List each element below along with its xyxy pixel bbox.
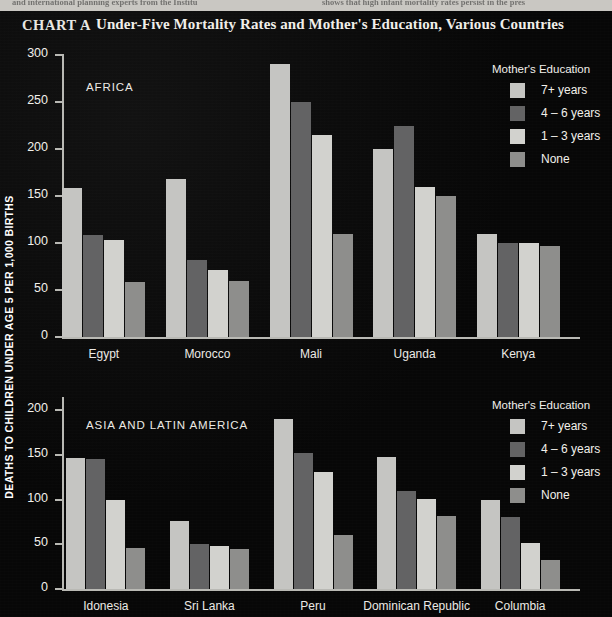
legend-title: Mother's Education: [492, 399, 590, 411]
bar-asia-latin-america-3-1: [397, 491, 416, 589]
legend-item-label: 7+ years: [541, 419, 587, 433]
y-axis-tick: [55, 454, 64, 456]
bar-africa-0-2: [104, 240, 124, 337]
legend-item-label: None: [541, 488, 570, 502]
bar-africa-2-0: [270, 64, 290, 337]
legend-swatch-icon: [510, 465, 525, 480]
y-axis-title: DEATHS TO CHILDREN UNDER AGE 5 PER 1,000…: [3, 157, 15, 537]
y-axis-tick-label: 200: [4, 401, 48, 415]
y-axis-tick: [55, 101, 64, 103]
page-title: Under-Five Mortality Rates and Mother's …: [96, 16, 564, 33]
y-axis-tick-label: 300: [4, 46, 48, 60]
bar-africa-4-2: [519, 243, 539, 337]
bar-asia-latin-america-3-3: [437, 516, 456, 589]
legend-swatch-icon: [510, 419, 525, 434]
x-axis-category-label: Columbia: [450, 599, 590, 613]
bar-africa-1-3: [229, 281, 249, 337]
page-text-fragment-right: shows that high infant mortality rates p…: [322, 0, 525, 7]
bar-asia-latin-america-2-2: [314, 472, 333, 589]
bar-asia-latin-america-4-2: [521, 543, 540, 589]
y-axis-tick: [55, 543, 64, 545]
y-axis-tick-label: 250: [4, 93, 48, 107]
x-axis-line: [62, 589, 580, 591]
page-text-fragment-left: and international planning experts from …: [12, 0, 197, 7]
chart-panel: CHART A Under-Five Mortality Rates and M…: [0, 11, 612, 617]
bar-asia-latin-america-4-0: [481, 500, 500, 589]
legend-swatch-icon: [510, 106, 525, 121]
y-axis-tick-label: 100: [4, 234, 48, 248]
bar-asia-latin-america-1-3: [230, 549, 249, 589]
y-axis-tick: [55, 409, 64, 411]
legend-item-label: 4 – 6 years: [541, 106, 600, 120]
bar-africa-2-3: [333, 234, 353, 337]
bar-africa-1-2: [208, 270, 228, 337]
bar-asia-latin-america-0-3: [126, 548, 145, 589]
bar-africa-3-1: [394, 126, 414, 338]
bar-africa-3-3: [436, 196, 456, 337]
bar-asia-latin-america-1-1: [190, 544, 209, 589]
y-axis-tick: [55, 588, 64, 590]
y-axis-tick-label: 100: [4, 491, 48, 505]
bar-asia-latin-america-2-1: [294, 453, 313, 589]
bar-asia-latin-america-3-2: [417, 499, 436, 589]
page-top-strip: and international planning experts from …: [0, 0, 612, 11]
x-axis-category-label: Kenya: [448, 347, 588, 361]
legend-item-label: 1 – 3 years: [541, 129, 600, 143]
bar-asia-latin-america-0-0: [66, 458, 85, 589]
legend-item-label: 7+ years: [541, 83, 587, 97]
y-axis-tick-label: 50: [4, 281, 48, 295]
y-axis-tick-label: 200: [4, 140, 48, 154]
bar-africa-3-2: [415, 187, 435, 337]
legend-swatch-icon: [510, 152, 525, 167]
x-axis-line: [62, 337, 580, 339]
legend-title: Mother's Education: [492, 63, 590, 75]
chart-number-label: CHART A: [22, 17, 91, 34]
y-axis-tick: [55, 148, 64, 150]
legend-swatch-icon: [510, 442, 525, 457]
y-axis-tick-label: 0: [4, 580, 48, 594]
bar-chart-asia-latin-america: 050100150200ASIA AND LATIN AMERICAIdones…: [62, 397, 580, 589]
y-axis-tick: [55, 54, 64, 56]
y-axis-title-container: DEATHS TO CHILDREN UNDER AGE 5 PER 1,000…: [0, 161, 19, 541]
bar-asia-latin-america-1-0: [170, 521, 189, 589]
y-axis-tick-label: 150: [4, 187, 48, 201]
y-axis-line: [62, 397, 64, 589]
legend-item-label: 4 – 6 years: [541, 442, 600, 456]
legend-item-label: None: [541, 152, 570, 166]
bar-chart-africa: 050100150200250300AFRICAEgyptMoroccoMali…: [62, 55, 580, 337]
y-axis-tick-label: 150: [4, 446, 48, 460]
bar-africa-2-1: [291, 102, 311, 337]
bar-africa-0-1: [83, 235, 103, 337]
bar-africa-4-0: [477, 234, 497, 337]
bar-asia-latin-america-0-2: [106, 500, 125, 589]
bar-asia-latin-america-4-1: [501, 517, 520, 589]
bar-africa-0-0: [62, 188, 82, 337]
y-axis-tick-label: 50: [4, 535, 48, 549]
region-label: ASIA AND LATIN AMERICA: [86, 419, 248, 431]
bar-asia-latin-america-4-3: [541, 560, 560, 589]
bar-asia-latin-america-2-0: [274, 419, 293, 589]
legend-swatch-icon: [510, 129, 525, 144]
bar-africa-1-0: [166, 179, 186, 337]
legend-swatch-icon: [510, 488, 525, 503]
bar-asia-latin-america-1-2: [210, 546, 229, 589]
bar-africa-1-1: [187, 260, 207, 337]
bar-africa-0-3: [125, 282, 145, 337]
bar-africa-4-3: [540, 246, 560, 337]
y-axis-tick: [55, 499, 64, 501]
bar-africa-2-2: [312, 135, 332, 337]
bar-africa-4-1: [498, 243, 518, 337]
bar-asia-latin-america-0-1: [86, 459, 105, 589]
legend-item-label: 1 – 3 years: [541, 465, 600, 479]
y-axis-tick-label: 0: [4, 328, 48, 342]
bar-africa-3-0: [373, 149, 393, 337]
chart-header: CHART A Under-Five Mortality Rates and M…: [0, 13, 612, 39]
legend-swatch-icon: [510, 83, 525, 98]
bar-asia-latin-america-3-0: [377, 457, 396, 589]
bar-asia-latin-america-2-3: [334, 535, 353, 589]
region-label: AFRICA: [86, 81, 134, 93]
